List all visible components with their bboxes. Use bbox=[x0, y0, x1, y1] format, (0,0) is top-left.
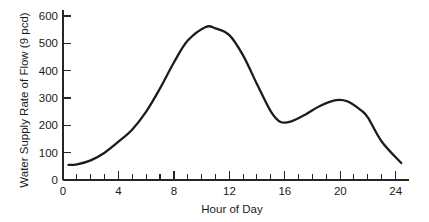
x-tick-label: 8 bbox=[171, 185, 177, 197]
chart-container: Water Supply Rate of Flow (9 pcd) 0 100 … bbox=[0, 0, 429, 222]
x-tick-label: 0 bbox=[60, 185, 66, 197]
x-tick-label: 16 bbox=[278, 185, 291, 197]
x-tick-label: 24 bbox=[389, 185, 402, 197]
y-tick-label: 200 bbox=[39, 119, 58, 131]
y-axis-ticks bbox=[63, 16, 71, 180]
y-tick-label: 500 bbox=[39, 37, 58, 49]
y-axis-title: Water Supply Rate of Flow (9 pcd) bbox=[18, 12, 30, 188]
axis-lines bbox=[63, 10, 409, 180]
line-chart: Water Supply Rate of Flow (9 pcd) 0 100 … bbox=[0, 0, 429, 222]
y-tick-label: 300 bbox=[39, 92, 58, 104]
x-axis-tick-labels: 0 4 8 12 16 20 24 bbox=[60, 185, 403, 197]
x-axis-major-ticks bbox=[63, 171, 396, 180]
y-axis-tick-labels: 0 100 200 300 400 500 600 bbox=[39, 10, 58, 186]
y-tick-label: 600 bbox=[39, 10, 58, 22]
x-axis-title: Hour of Day bbox=[201, 203, 263, 215]
x-tick-label: 20 bbox=[334, 185, 347, 197]
x-tick-label: 12 bbox=[223, 185, 236, 197]
data-series-line bbox=[69, 26, 402, 165]
y-tick-label: 400 bbox=[39, 65, 58, 77]
y-tick-label: 0 bbox=[52, 174, 58, 186]
x-tick-label: 4 bbox=[115, 185, 122, 197]
y-tick-label: 100 bbox=[39, 147, 58, 159]
